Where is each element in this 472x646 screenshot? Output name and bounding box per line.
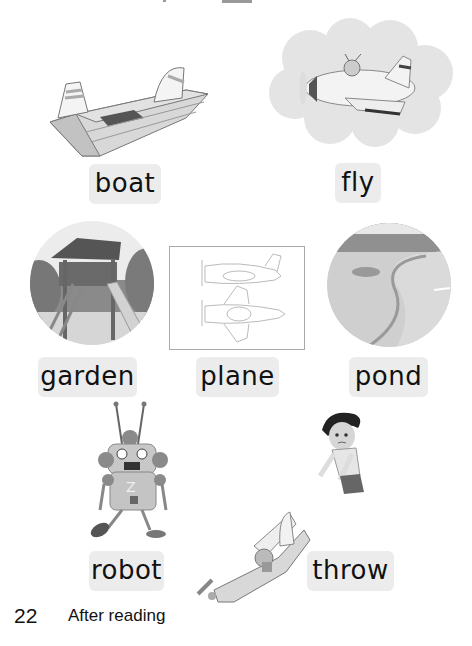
section-title: After reading <box>68 606 165 626</box>
word-label-garden: garden <box>38 357 137 397</box>
thrown-plane-illustration <box>194 506 324 606</box>
cropped-underline <box>222 0 252 3</box>
cropped-mark <box>163 0 166 2</box>
page-number: 22 <box>14 604 37 628</box>
pond-illustration <box>326 222 452 348</box>
paper-plane-drawing <box>169 246 305 350</box>
boat-illustration <box>36 62 226 162</box>
word-label-throw: throw <box>307 551 394 591</box>
svg-text:Z: Z <box>126 479 136 495</box>
word-label-robot: robot <box>89 551 164 591</box>
word-label-plane: plane <box>196 357 279 397</box>
garden-playground-illustration <box>29 220 155 346</box>
word-label-boat: boat <box>89 164 161 204</box>
robot-illustration: Z <box>86 400 186 540</box>
word-label-pond: pond <box>349 357 428 397</box>
boy-throwing-illustration <box>314 408 376 498</box>
plane-in-cloud-illustration <box>265 18 465 148</box>
word-label-fly: fly <box>335 163 381 203</box>
